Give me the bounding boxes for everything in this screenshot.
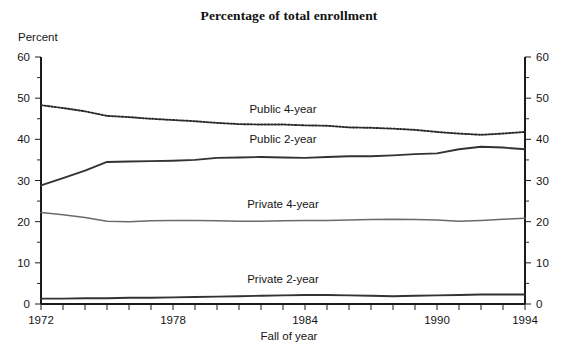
y-tick-label-right: 30 xyxy=(536,175,549,187)
y-tick-label-left: 40 xyxy=(17,133,30,145)
x-tick-label: 1990 xyxy=(424,314,450,326)
y-tick-label-left: 20 xyxy=(17,216,30,228)
x-tick-label: 1978 xyxy=(160,314,186,326)
y-tick-label-right: 60 xyxy=(536,51,549,63)
y-tick-label-right: 50 xyxy=(536,92,549,104)
series-label-private-4-year: Private 4-year xyxy=(247,198,319,210)
y-tick-label-right: 0 xyxy=(536,298,542,310)
series-line-public-2-year xyxy=(41,147,525,186)
series-label-private-2-year: Private 2-year xyxy=(247,273,319,285)
line-chart-plot: 0102030405060 0102030405060 197219781984… xyxy=(0,0,578,355)
x-axis-ticks: 19721978198419901994 xyxy=(28,304,538,326)
series-labels-group: Public 4-yearPublic 2-yearPrivate 4-year… xyxy=(247,103,319,285)
y-tick-label-left: 0 xyxy=(24,298,30,310)
y-tick-label-left: 60 xyxy=(17,51,30,63)
y-axis-right-ticks: 0102030405060 xyxy=(525,51,549,310)
x-tick-label: 1984 xyxy=(292,314,318,326)
y-axis-left-ticks: 0102030405060 xyxy=(17,51,41,310)
axis-frame xyxy=(41,57,525,304)
x-tick-label: 1994 xyxy=(512,314,538,326)
y-tick-label-left: 30 xyxy=(17,175,30,187)
y-tick-label-right: 10 xyxy=(536,257,549,269)
x-tick-label: 1972 xyxy=(28,314,54,326)
series-label-public-2-year: Public 2-year xyxy=(249,133,316,145)
y-tick-label-left: 10 xyxy=(17,257,30,269)
y-tick-label-left: 50 xyxy=(17,92,30,104)
y-tick-label-right: 20 xyxy=(536,216,549,228)
series-line-private-4-year xyxy=(41,213,525,222)
chart-figure: Percentage of total enrollment Percent F… xyxy=(0,0,578,355)
y-tick-label-right: 40 xyxy=(536,133,549,145)
series-label-public-4-year: Public 4-year xyxy=(249,103,316,115)
series-line-private-2-year xyxy=(41,295,525,299)
